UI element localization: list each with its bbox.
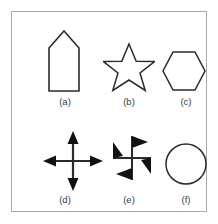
shape-panel-c: (c)	[158, 26, 214, 110]
hexagon-icon	[161, 50, 207, 92]
figure-root: (a) (b) (c)	[0, 0, 218, 224]
four-way-cross-arrow-icon	[42, 130, 104, 192]
shape-label-a: (a)	[30, 96, 100, 107]
pinwheel-half-arrow-cross-icon	[107, 130, 157, 186]
figure-frame: (a) (b) (c)	[11, 11, 207, 212]
five-pointed-star-icon	[103, 42, 155, 92]
shape-label-c: (c)	[158, 96, 214, 107]
shape-panel-e: (e)	[98, 124, 160, 208]
shape-panel-d: (d)	[30, 124, 100, 208]
shape-label-e: (e)	[98, 194, 160, 205]
shape-label-f: (f)	[158, 194, 214, 205]
house-pentagon-icon	[46, 28, 82, 94]
shape-panel-f: (f)	[158, 124, 214, 208]
circle-icon	[164, 142, 208, 186]
shape-label-d: (d)	[30, 194, 100, 205]
shape-panel-a: (a)	[30, 26, 100, 110]
shape-label-b: (b)	[98, 96, 160, 107]
shape-panel-b: (b)	[98, 26, 160, 110]
